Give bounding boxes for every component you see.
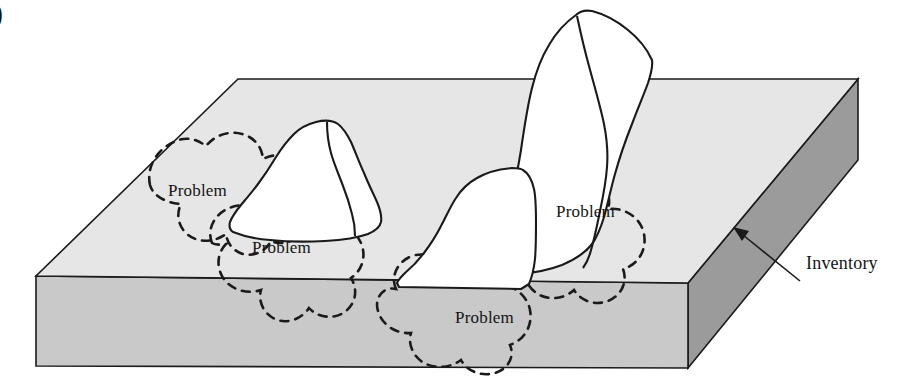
problem-label-4: Problem [455,308,514,328]
inventory-label: Inventory [806,253,878,274]
problem-label-1: Problem [168,181,227,201]
problem-label-2: Problem [252,238,311,258]
rock-front-center-base-highlight [399,283,521,284]
figure-container: ) Problem Problem Pro [0,0,909,388]
slab-front-face [36,276,688,368]
inventory-rocks-diagram [0,0,909,388]
problem-label-3: Problem [556,202,615,222]
